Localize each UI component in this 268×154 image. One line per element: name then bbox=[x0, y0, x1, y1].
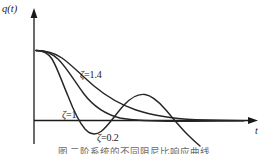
figure-caption: 图 二阶系统的不同阻尼比响应曲线 bbox=[0, 147, 268, 154]
figure-container: q(t) t ζ=1.4 ζ=1 ζ=0.2 图 二阶系统的不同阻尼比响应曲线 bbox=[0, 0, 268, 154]
zeta-value: =1.4 bbox=[84, 69, 102, 80]
curve-label-zeta-1: ζ=1 bbox=[62, 110, 76, 120]
x-axis-label: t bbox=[255, 126, 258, 136]
x-axis-arrowhead bbox=[248, 117, 258, 124]
y-axis-arrowhead bbox=[31, 8, 38, 18]
curve-label-zeta-0-2: ζ=0.2 bbox=[97, 133, 119, 143]
zeta-value: =0.2 bbox=[101, 132, 119, 143]
plot-canvas bbox=[0, 0, 268, 154]
y-axis-label: q(t) bbox=[2, 4, 17, 15]
y-axis bbox=[31, 8, 38, 144]
curve-label-zeta-1-4: ζ=1.4 bbox=[80, 70, 102, 80]
zeta-value: =1 bbox=[66, 109, 76, 120]
